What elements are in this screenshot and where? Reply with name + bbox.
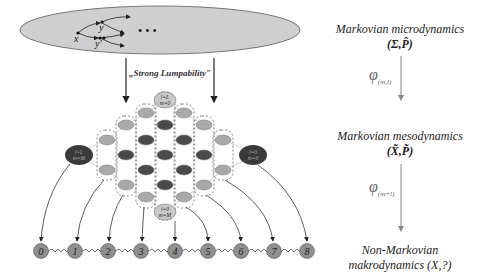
chain-label-2: 2 <box>106 246 111 257</box>
meso-symbol: (X̃,P̃) <box>320 144 480 159</box>
micro-title: Markovian microdynamics <box>320 22 480 37</box>
chain-nodes: 0 1 2 3 4 5 6 7 8 <box>34 244 315 259</box>
node-y-prime-label: y' <box>94 38 102 49</box>
lattice-top-node: l=L m=0 <box>154 92 176 108</box>
phi-ml-label: φ(m,l) <box>369 66 391 86</box>
micro-symbol: (Σ,P̂) <box>320 37 480 52</box>
chain-label-0: 0 <box>39 246 44 257</box>
micro-state-space: x y y' • • • <box>20 6 300 54</box>
chain-label-3: 3 <box>138 246 144 257</box>
chain-label-5: 5 <box>206 246 211 257</box>
chain-label-1: 1 <box>73 246 78 257</box>
lattice-right-node: l=0 m=0 <box>239 145 267 165</box>
phi-m-plus-l-label: φ(m+l) <box>369 178 394 198</box>
macro-title-line2: makrodynamics (X,?) <box>320 258 480 273</box>
chain-label-6: 6 <box>239 246 244 257</box>
lumpability-label: „Strong Lumpability" <box>129 68 211 78</box>
svg-text:m=M: m=M <box>73 155 86 161</box>
meso-title: Markovian mesodynamics <box>320 129 480 144</box>
chain-label-4: 4 <box>173 246 178 257</box>
svg-text:m=M: m=M <box>159 212 172 218</box>
svg-text:m=0: m=0 <box>160 100 171 106</box>
ellipsis: • • • <box>138 24 157 38</box>
lattice-nodes <box>99 108 231 202</box>
lattice-left-node: l=L m=M <box>65 145 93 165</box>
chain-label-8: 8 <box>305 246 310 257</box>
node-x-label: x <box>73 33 79 44</box>
macro-title-line1: Non-Markovian <box>320 243 480 258</box>
node-y-label: y <box>98 22 104 33</box>
lattice-bottom-node: l=0 m=M <box>154 204 176 220</box>
svg-text:m=0: m=0 <box>248 155 259 161</box>
